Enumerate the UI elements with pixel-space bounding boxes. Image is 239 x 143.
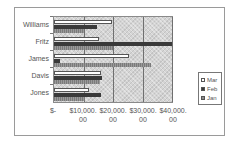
feb-swatch-icon: [201, 87, 205, 91]
legend-item-jan: Jan: [201, 95, 217, 102]
mar-swatch-icon: [201, 78, 205, 82]
category-tick: [50, 50, 53, 51]
plot-area: [53, 16, 173, 103]
category-label: Williams: [23, 21, 49, 29]
category-label: Jones: [30, 89, 49, 97]
legend-item-feb: Feb: [201, 86, 217, 93]
x-tick-label: $-: [38, 106, 68, 115]
category-label: Fritz: [35, 38, 49, 46]
bar-davis-mar: [54, 71, 101, 75]
gridline: [113, 17, 114, 102]
legend: Mar Feb Jan: [198, 72, 222, 105]
bar-james-jan: [54, 63, 151, 67]
bar-james-mar: [54, 54, 129, 58]
x-tick-label: $30,000.00: [128, 106, 158, 124]
category-tick: [50, 84, 53, 85]
jan-swatch-icon: [201, 96, 205, 100]
bar-jones-mar: [54, 88, 89, 92]
bar-williams-mar: [54, 20, 112, 24]
bar-fritz-jan: [54, 46, 113, 50]
legend-item-mar: Mar: [201, 77, 217, 84]
x-tick-label: $10,000.00: [68, 106, 98, 124]
category-label: James: [28, 55, 49, 63]
gridline: [172, 17, 173, 102]
category-tick: [50, 16, 53, 17]
x-tick-label: $40,000.00: [158, 106, 188, 124]
gridline: [143, 17, 144, 102]
bar-williams-jan: [54, 29, 84, 33]
category-tick: [50, 33, 53, 34]
bar-jones-jan: [54, 97, 85, 101]
category-tick: [50, 67, 53, 68]
bar-fritz-mar: [54, 37, 99, 41]
x-tick-label: $20,000.00: [98, 106, 128, 124]
bar-davis-jan: [54, 80, 100, 84]
category-label: Davis: [31, 72, 49, 80]
